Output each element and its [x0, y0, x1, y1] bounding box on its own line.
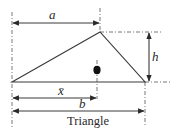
- label-h: h: [152, 49, 159, 64]
- label-b: b: [79, 96, 86, 111]
- triangle-centroid-diagram: a h x̄ b Triangle: [0, 0, 176, 139]
- diagram-title: Triangle: [67, 114, 109, 128]
- triangle-shape: [12, 32, 145, 82]
- label-xbar: x̄: [57, 83, 64, 98]
- dimension-a: a: [13, 7, 99, 23]
- reference-lines: [12, 8, 170, 127]
- dimension-h: h: [149, 33, 159, 81]
- label-a: a: [49, 7, 56, 22]
- centroid-dot: [93, 66, 100, 74]
